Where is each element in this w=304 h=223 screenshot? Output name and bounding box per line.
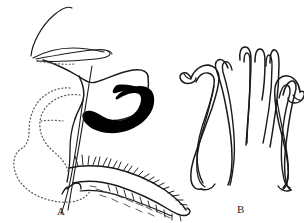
panel-label-a: A bbox=[57, 206, 65, 217]
plate-background bbox=[0, 0, 304, 223]
panel-label-b: B bbox=[237, 204, 245, 215]
plate-drawing bbox=[0, 0, 304, 223]
figure-plate: A B bbox=[0, 0, 304, 223]
